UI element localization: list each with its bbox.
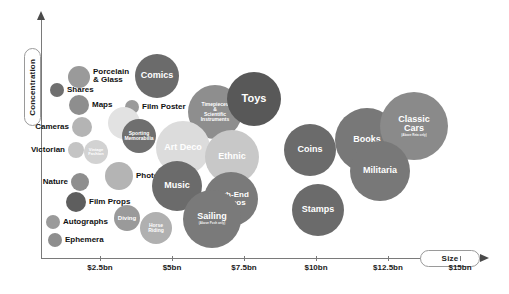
- x-axis-tick-label: $10bn: [304, 263, 327, 272]
- bubble-label: Diving: [117, 215, 137, 221]
- bubble-autographs[interactable]: [46, 215, 60, 229]
- bubble-diving[interactable]: Diving: [114, 205, 140, 231]
- bubble-label: Sailing: [196, 212, 228, 221]
- bubble-coins[interactable]: Coins: [284, 124, 336, 176]
- x-axis-tick: [388, 256, 389, 261]
- x-axis-tick-label: $7.5bn: [231, 263, 256, 272]
- x-axis-arrow-icon: [480, 254, 489, 262]
- bubble-label: Autographs: [63, 218, 108, 226]
- bubble-shares[interactable]: [50, 83, 64, 97]
- x-axis-tick-label: $5bn: [163, 263, 182, 272]
- bubble-label: Vintage Fashion: [87, 148, 104, 156]
- x-axis-line: [41, 258, 481, 259]
- bubble-victorian[interactable]: [68, 142, 84, 158]
- y-axis-line: [41, 20, 42, 258]
- bubble-label: Classic Cars: [397, 115, 431, 133]
- bubble-militaria[interactable]: Militaria: [350, 141, 410, 201]
- bubble-label: Horse Riding: [147, 223, 165, 233]
- bubble-label: Toys: [241, 93, 268, 104]
- bubble-label: Art Deco: [163, 143, 203, 152]
- bubble-label: Cameras: [35, 123, 69, 131]
- y-axis-arrow-icon: [37, 11, 45, 20]
- x-axis-tick: [172, 256, 173, 261]
- x-axis-tick-label: $2.5bn: [87, 263, 112, 272]
- bubble-label: Ephemera: [65, 236, 104, 244]
- x-axis-title-label: Size: [442, 254, 459, 263]
- bubble-label: Nature: [43, 178, 68, 186]
- x-axis-tick-label: $12.5bn: [373, 263, 403, 272]
- bubble-label: Ethnic: [217, 152, 247, 161]
- bubble-porcelain-glass[interactable]: [68, 66, 90, 88]
- bubble-photos[interactable]: [105, 162, 133, 190]
- x-axis-tick: [244, 256, 245, 261]
- bubble-horse-riding[interactable]: Horse Riding: [140, 212, 172, 244]
- x-axis-tick: [460, 256, 461, 261]
- bubble-label: Music: [163, 181, 191, 190]
- bubble-chart: Concentration Size $2.5bn$5bn$7.5bn$10bn…: [0, 0, 509, 294]
- x-axis-tick: [316, 256, 317, 261]
- bubble-label: Sporting Memorabilia: [123, 131, 154, 141]
- bubble-label: Porcelain & Glass: [93, 68, 129, 85]
- bubble-sublabel: (Above Reta only): [401, 134, 427, 137]
- bubble-label: Comics: [140, 71, 175, 80]
- y-axis-title: Concentration: [24, 48, 41, 126]
- bubble-sailing[interactable]: Sailing(Above Posh only): [183, 190, 241, 248]
- bubble-label: Maps: [92, 101, 112, 109]
- bubble-label: Militaria: [362, 166, 398, 175]
- bubble-film-props[interactable]: [66, 192, 86, 212]
- x-axis-tick-label: $15bn: [448, 263, 471, 272]
- bubble-maps[interactable]: [69, 95, 89, 115]
- bubble-sublabel: (Above Posh only): [199, 222, 225, 225]
- bubble-label: Coins: [296, 145, 323, 154]
- bubble-label: Stamps: [301, 205, 336, 214]
- bubble-nature[interactable]: [71, 173, 89, 191]
- y-axis-title-label: Concentration: [28, 59, 37, 116]
- bubble-comics[interactable]: Comics: [135, 54, 179, 98]
- bubble-stamps[interactable]: Stamps: [292, 184, 344, 236]
- bubble-sporting-memorabilia[interactable]: Sporting Memorabilia: [122, 119, 156, 153]
- bubble-cameras[interactable]: [72, 117, 92, 137]
- bubble-toys[interactable]: Toys: [227, 72, 281, 126]
- x-axis-tick: [100, 256, 101, 261]
- bubble-ephemera[interactable]: [48, 233, 62, 247]
- bubble-label: Victorian: [31, 146, 65, 154]
- bubble-label: Film Poster: [142, 103, 186, 111]
- bubble-vintage-fashion[interactable]: Vintage Fashion: [84, 140, 108, 164]
- bubble-label: Timepieces & Scientific Instruments: [200, 102, 231, 122]
